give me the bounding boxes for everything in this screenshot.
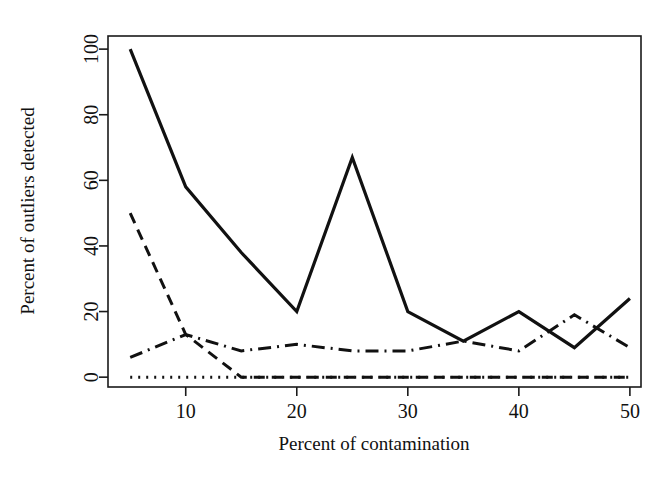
y-tick-label-60: 60 [80, 170, 102, 190]
y-tick-label-100: 100 [80, 34, 102, 64]
x-tick-label-10: 10 [176, 400, 196, 422]
x-tick-label-40: 40 [509, 400, 529, 422]
y-tick-label-80: 80 [80, 105, 102, 125]
x-axis-title: Percent of contamination [279, 433, 470, 454]
y-tick-label-0: 0 [80, 372, 102, 382]
line-chart: 020406080100 1020304050 Percent of conta… [0, 0, 672, 478]
figure-canvas: 020406080100 1020304050 Percent of conta… [0, 0, 672, 478]
x-tick-label-30: 30 [398, 400, 418, 422]
x-tick-label-50: 50 [620, 400, 640, 422]
y-axis-title: Percent of outliers detected [17, 107, 38, 315]
x-tick-label-20: 20 [287, 400, 307, 422]
y-tick-label-40: 40 [80, 236, 102, 256]
y-tick-label-20: 20 [80, 302, 102, 322]
